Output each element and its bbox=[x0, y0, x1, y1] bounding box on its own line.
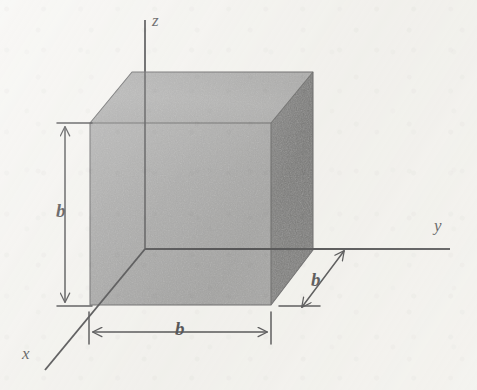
cube-coordinate-diagram bbox=[0, 0, 477, 390]
depth-dimension-label: b bbox=[311, 269, 321, 291]
y-axis-label: y bbox=[434, 216, 442, 236]
width-dimension-label: b bbox=[175, 318, 185, 340]
height-dimension-label: b bbox=[56, 200, 66, 222]
cube-solid bbox=[90, 72, 313, 305]
depth-measure-line bbox=[302, 251, 344, 307]
figure-canvas: z y x b b b bbox=[0, 0, 477, 390]
z-axis-label: z bbox=[152, 11, 159, 31]
cube-front-face bbox=[90, 123, 271, 305]
x-axis-label: x bbox=[22, 344, 30, 364]
